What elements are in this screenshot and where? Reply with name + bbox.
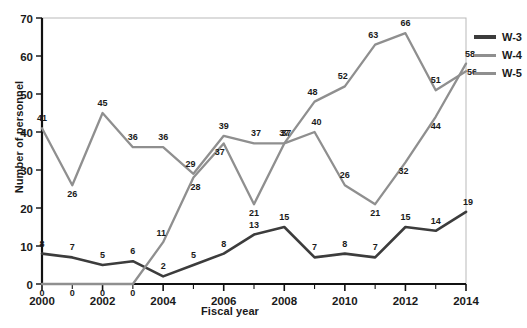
data-label: 39 (219, 121, 229, 131)
data-label: 8 (342, 239, 347, 249)
legend-label: W-3 (502, 32, 522, 43)
data-label: 7 (373, 242, 378, 252)
data-label: 37 (251, 128, 261, 138)
data-label: 11 (156, 228, 166, 238)
data-label: 0 (70, 288, 75, 298)
data-label: 0 (100, 288, 105, 298)
plot-area: 0102030405060702000200220042006200820102… (0, 0, 527, 328)
data-label: 37 (215, 147, 225, 157)
data-label: 21 (370, 208, 380, 218)
data-label: 19 (463, 197, 473, 207)
data-label: 5 (100, 250, 105, 260)
data-label: 6 (130, 246, 135, 256)
legend-item-w-3[interactable]: W-3 (474, 28, 522, 46)
data-label: 15 (279, 212, 289, 222)
series-w-4 (42, 33, 466, 185)
data-label: 7 (70, 242, 75, 252)
line-chart: 0102030405060702000200220042006200820102… (0, 0, 527, 328)
data-label: 36 (128, 132, 138, 142)
data-label: 41 (37, 113, 47, 123)
data-label: 63 (368, 30, 378, 40)
data-label: 45 (98, 98, 108, 108)
data-label: 44 (431, 121, 441, 131)
data-label: 32 (398, 166, 408, 176)
data-label: 0 (130, 288, 135, 298)
data-label: 36 (158, 132, 168, 142)
data-label: 8 (221, 239, 226, 249)
data-label: 8 (39, 239, 44, 249)
data-label: 0 (39, 288, 44, 298)
legend-swatch-w-3 (474, 35, 496, 39)
data-label: 26 (67, 189, 77, 199)
legend-label: W-5 (502, 68, 522, 79)
y-tick-label: 0 (27, 279, 33, 291)
data-label: 29 (185, 159, 195, 169)
legend-item-w-4[interactable]: W-4 (474, 46, 522, 64)
data-label: 40 (312, 117, 322, 127)
data-label: 26 (340, 170, 350, 180)
legend-item-w-5[interactable]: W-5 (474, 64, 522, 82)
legend-label: W-4 (502, 50, 522, 61)
plot-frame (42, 18, 466, 284)
chart-legend: W-3W-4W-5 (474, 28, 522, 82)
legend-swatch-w-4 (474, 54, 496, 57)
data-label: 51 (431, 75, 441, 85)
y-tick-label: 20 (20, 203, 33, 215)
data-label: 2 (161, 261, 166, 271)
y-tick-label: 10 (20, 241, 33, 253)
legend-swatch-w-5 (474, 72, 496, 75)
y-axis-title: Number of personnel (13, 77, 25, 197)
data-label: 15 (400, 212, 410, 222)
data-label: 52 (338, 71, 348, 81)
data-label: 13 (249, 220, 259, 230)
x-axis-title: Fiscal year (0, 305, 460, 317)
data-label: 14 (431, 216, 441, 226)
data-label: 28 (190, 182, 200, 192)
series-line (42, 33, 466, 185)
data-label: 37 (279, 128, 289, 138)
data-label: 7 (312, 242, 317, 252)
data-label: 21 (249, 208, 259, 218)
y-tick-label: 70 (20, 13, 33, 25)
data-label: 48 (308, 87, 318, 97)
y-tick-label: 60 (20, 51, 33, 63)
data-label: 5 (191, 250, 196, 260)
data-label: 66 (400, 18, 410, 28)
